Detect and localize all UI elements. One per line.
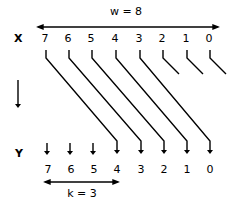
k-left-arrowhead-icon xyxy=(45,180,50,184)
shift-path-4 xyxy=(116,50,187,150)
right-arrowhead-icon xyxy=(213,25,218,29)
dropped-bit-0 xyxy=(210,50,226,74)
shift-path-3 xyxy=(140,50,210,150)
shift-path-6 xyxy=(69,50,141,150)
down-arrow-icon xyxy=(15,104,21,108)
arrowhead-icon xyxy=(161,150,167,154)
dropped-bit-2 xyxy=(163,50,179,74)
arrowhead-icon xyxy=(67,151,73,155)
arrowhead-icon xyxy=(114,150,120,154)
shift-path-5 xyxy=(92,50,164,150)
k-right-arrowhead-icon xyxy=(113,180,118,184)
left-arrowhead-icon xyxy=(38,25,43,29)
arrowhead-icon xyxy=(184,150,190,154)
diagram-lines xyxy=(0,0,237,208)
arrowhead-icon xyxy=(44,151,50,155)
arrowhead-icon xyxy=(207,150,213,154)
arrowhead-icon xyxy=(138,150,144,154)
dropped-bit-1 xyxy=(187,50,203,74)
arrowhead-icon xyxy=(90,151,96,155)
